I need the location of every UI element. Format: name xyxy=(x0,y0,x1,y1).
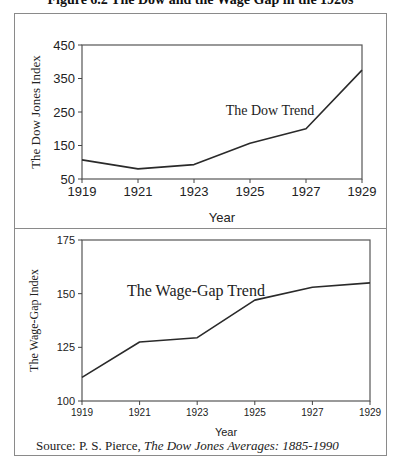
chart-2: 100125150175191919211923192519271929Year… xyxy=(27,234,382,438)
x-tick-label: 1925 xyxy=(236,184,265,199)
x-tick-label: 1921 xyxy=(128,407,151,418)
x-tick-label: 1929 xyxy=(359,407,382,418)
y-tick-label: 350 xyxy=(53,71,75,86)
trend-annotation: The Wage-Gap Trend xyxy=(127,282,265,300)
trend-annotation: The Dow Trend xyxy=(226,103,315,118)
x-axis-label: Year xyxy=(215,426,238,438)
y-axis-label: The Wage-Gap Index xyxy=(27,269,41,372)
x-tick-label: 1921 xyxy=(124,184,153,199)
plot-area xyxy=(82,45,362,179)
source-title: The Dow Jones Averages: 1885-1990 xyxy=(144,438,339,453)
y-tick-label: 125 xyxy=(57,341,75,353)
x-tick-label: 1919 xyxy=(68,184,97,199)
chart-1: 50150250350450191919211923192519271929Ye… xyxy=(28,38,376,225)
y-tick-label: 150 xyxy=(53,138,75,153)
y-tick-label: 250 xyxy=(53,105,75,120)
x-tick-label: 1927 xyxy=(301,407,324,418)
x-tick-label: 1929 xyxy=(348,184,377,199)
x-tick-label: 1923 xyxy=(180,184,209,199)
charts-canvas: 50150250350450191919211923192519271929Ye… xyxy=(0,0,401,472)
plot-area xyxy=(82,240,370,401)
y-axis-label: The Dow Jones Index xyxy=(28,55,43,169)
source-prefix: Source: P. S. Pierce, xyxy=(36,438,144,453)
y-tick-label: 175 xyxy=(57,234,75,246)
y-tick-label: 100 xyxy=(57,395,75,407)
y-tick-label: 450 xyxy=(53,38,75,53)
source-citation: Source: P. S. Pierce, The Dow Jones Aver… xyxy=(36,438,339,454)
x-tick-label: 1923 xyxy=(186,407,209,418)
series-line xyxy=(82,70,362,169)
x-axis-label: Year xyxy=(209,210,236,225)
y-tick-label: 150 xyxy=(57,288,75,300)
x-tick-label: 1927 xyxy=(292,184,321,199)
x-tick-label: 1919 xyxy=(71,407,94,418)
x-tick-label: 1925 xyxy=(244,407,267,418)
